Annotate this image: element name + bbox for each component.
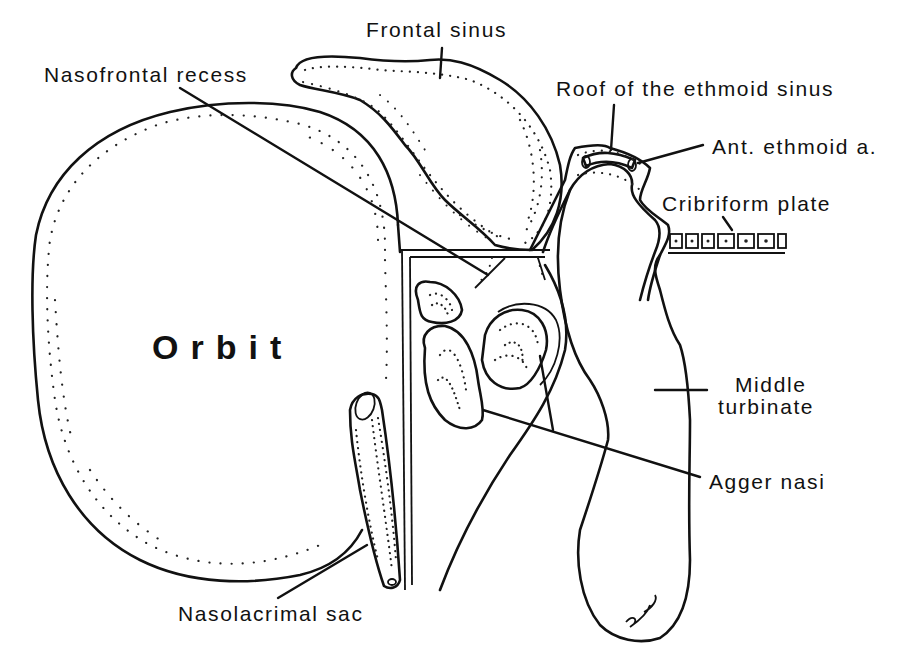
- anatomy-diagram: Frontal sinus Nasofrontal recess Roof of…: [0, 0, 920, 661]
- leader-agger-nasi-2: [540, 356, 553, 430]
- label-middle: Middle: [735, 374, 806, 395]
- leader-frontal-sinus: [440, 48, 442, 78]
- leader-agger-nasi-1: [483, 410, 700, 477]
- label-nasolacrimal-sac: Nasolacrimal sac: [178, 603, 363, 624]
- leader-nasolacrimal-sac: [278, 545, 367, 598]
- label-roof-ethmoid-sinus: Roof of the ethmoid sinus: [556, 78, 834, 99]
- frontal-sinus-shape: [292, 56, 562, 250]
- label-agger-nasi: Agger nasi: [709, 471, 825, 492]
- label-ant-ethmoid-artery: Ant. ethmoid a.: [712, 136, 877, 157]
- leader-ant-ethmoid: [638, 145, 703, 163]
- cribriform-plate: [668, 234, 786, 253]
- middle-turbinate-shape: [558, 190, 690, 641]
- artist-signature: [626, 595, 656, 627]
- label-orbit: Orbit: [152, 330, 293, 364]
- label-cribriform-plate: Cribriform plate: [662, 193, 831, 214]
- leader-lines: [180, 48, 732, 598]
- leader-roof-ethmoid: [611, 105, 614, 150]
- label-frontal-sinus: Frontal sinus: [366, 19, 507, 40]
- label-turbinate: turbinate: [718, 396, 814, 417]
- label-nasofrontal-recess: Nasofrontal recess: [44, 64, 248, 85]
- agger-nasi-cells: [416, 282, 560, 429]
- nasolacrimal-sac-shape: [350, 390, 400, 588]
- leader-cribriform: [723, 217, 732, 230]
- lamina-papyracea: [400, 250, 550, 590]
